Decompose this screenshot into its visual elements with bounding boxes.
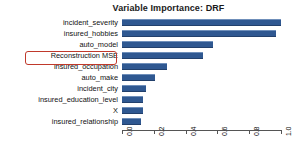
bar bbox=[122, 118, 141, 125]
category-label: incident_severity bbox=[63, 17, 118, 28]
bar-row: auto_make bbox=[0, 72, 295, 83]
category-label: insured_hobbies bbox=[64, 28, 118, 39]
bar bbox=[122, 74, 155, 81]
x-axis-tick bbox=[186, 130, 187, 134]
x-axis-tick-label: 0.4 bbox=[190, 127, 197, 136]
x-axis-tick-label: 0.8 bbox=[253, 127, 260, 136]
x-axis-tick bbox=[154, 130, 155, 134]
bar-row: incident_severity bbox=[0, 17, 295, 28]
bar bbox=[122, 19, 281, 26]
category-label: incident_city bbox=[77, 83, 118, 94]
category-label: auto_make bbox=[81, 72, 118, 83]
category-label: X bbox=[113, 105, 118, 116]
bar-row: incident_city bbox=[0, 83, 295, 94]
bar-row: insured_education_level bbox=[0, 94, 295, 105]
bar bbox=[122, 107, 143, 114]
bar bbox=[122, 52, 203, 59]
x-axis-tick bbox=[122, 130, 123, 134]
bar-row: X bbox=[0, 105, 295, 116]
bar-row: auto_model bbox=[0, 39, 295, 50]
plot-area: incident_severity insured_hobbies auto_m… bbox=[0, 17, 295, 129]
bar-row: insured_hobbies bbox=[0, 28, 295, 39]
bar-row: insured_relationship bbox=[0, 116, 295, 127]
x-axis-tick-label: 0.2 bbox=[158, 127, 165, 136]
bar bbox=[122, 63, 167, 70]
bar bbox=[122, 30, 276, 37]
highlight-box-reconstruction-mse bbox=[25, 51, 117, 65]
category-label: insured_relationship bbox=[52, 116, 118, 127]
bar bbox=[122, 41, 213, 48]
chart-title: Variable Importance: DRF bbox=[0, 3, 295, 13]
bar bbox=[122, 96, 143, 103]
x-axis-tick bbox=[249, 130, 250, 134]
bar bbox=[122, 85, 146, 92]
category-label: auto_model bbox=[79, 39, 118, 50]
x-axis-tick-label: 0.0 bbox=[126, 127, 133, 136]
category-label: insured_education_level bbox=[38, 94, 118, 105]
x-axis-tick-label: 0.6 bbox=[221, 127, 228, 136]
x-axis-tick-label: 1.0 bbox=[285, 127, 292, 136]
variable-importance-chart: Variable Importance: DRF incident_severi… bbox=[0, 0, 295, 163]
x-axis-tick bbox=[281, 130, 282, 134]
x-axis-tick bbox=[217, 130, 218, 134]
